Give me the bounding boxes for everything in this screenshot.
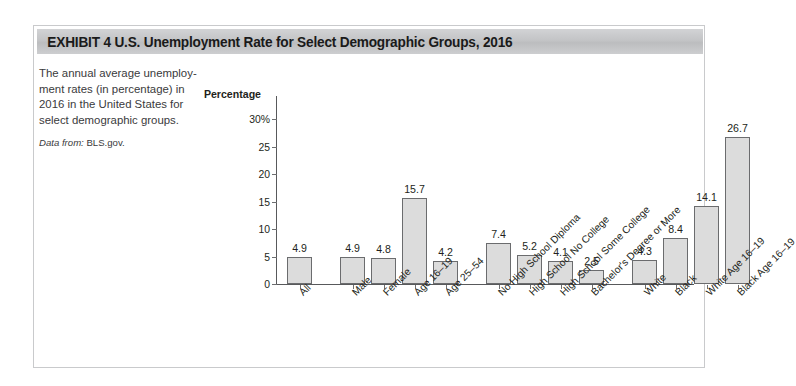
bar-value-label: 8.4 xyxy=(668,223,683,235)
y-axis-tick-label: 5 xyxy=(264,251,270,262)
y-axis-tick-label: 20 xyxy=(258,169,270,180)
source-value: BLS.gov. xyxy=(86,137,124,148)
y-axis-tick-mark xyxy=(272,147,277,148)
y-axis-tick-label: 25 xyxy=(258,141,270,152)
caption-block: The annual average unemploy- ment rates … xyxy=(39,66,234,148)
bar-value-label: 7.4 xyxy=(491,228,506,240)
bar-value-label: 4.9 xyxy=(345,242,360,254)
x-axis-line xyxy=(276,284,694,285)
y-axis-tick-label: 30% xyxy=(249,114,270,125)
bar-value-label: 4.9 xyxy=(292,242,307,254)
y-axis-title: Percentage xyxy=(204,88,261,100)
y-axis-tick-mark xyxy=(272,119,277,120)
bar-value-label: 15.7 xyxy=(404,183,425,195)
y-axis-tick-mark xyxy=(272,257,277,258)
caption-source: Data from: BLS.gov. xyxy=(39,137,234,148)
y-axis-tick-mark xyxy=(272,284,277,285)
y-axis-tick-mark xyxy=(272,202,277,203)
y-axis-tick-label: 0 xyxy=(264,279,270,290)
y-axis-tick-mark xyxy=(272,229,277,230)
bar-value-label: 4.8 xyxy=(376,243,391,255)
source-label: Data from: xyxy=(39,137,84,148)
bar-value-label: 26.7 xyxy=(727,122,748,134)
bar xyxy=(694,206,719,284)
y-axis-tick-label: 15 xyxy=(258,196,270,207)
bar xyxy=(287,257,312,284)
y-axis-tick-mark xyxy=(272,174,277,175)
exhibit-container: EXHIBIT 4 U.S. Unemployment Rate for Sel… xyxy=(33,25,705,368)
bar-chart: Percentage 051015202530% 4.94.94.815.74.… xyxy=(224,36,694,366)
bar-value-label: 14.1 xyxy=(696,191,717,203)
y-axis-tick-label: 10 xyxy=(258,224,270,235)
